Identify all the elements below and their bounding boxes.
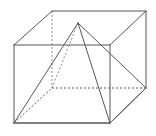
geometry-figure bbox=[0, 0, 156, 136]
figure-background bbox=[0, 0, 156, 136]
figure-canvas bbox=[0, 0, 156, 136]
